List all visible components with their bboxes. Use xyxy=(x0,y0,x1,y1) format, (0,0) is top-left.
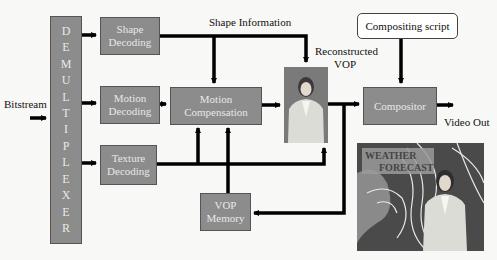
demux-letter: U xyxy=(62,73,71,88)
block-label: Compositor xyxy=(374,100,426,113)
block-label: Decoding xyxy=(109,105,152,118)
vop-memory-block: VOP Memory xyxy=(200,193,251,231)
block-label: VOP xyxy=(214,199,236,212)
demultiplexer-block: D E M U L T I P L E X E R xyxy=(50,16,82,244)
demux-letter: L xyxy=(62,90,69,105)
video-out-label: Video Out xyxy=(444,116,489,128)
compositing-script-box: Compositing script xyxy=(357,13,458,39)
bitstream-label: Bitstream xyxy=(4,98,47,110)
demux-letter: E xyxy=(62,205,69,220)
demux-letter: R xyxy=(62,221,70,236)
forecast-text: FORECAST xyxy=(379,162,434,173)
composited-output-image: WEATHER FORECAST xyxy=(357,143,484,251)
motion-compensation-block: Motion Compensation xyxy=(170,87,262,125)
block-label: Decoding xyxy=(107,165,150,178)
reconstructed-label-line1: Reconstructed xyxy=(315,45,378,57)
block-label: Shape xyxy=(117,23,144,36)
demux-letter: M xyxy=(61,57,72,72)
block-label: Decoding xyxy=(109,36,152,49)
texture-decoding-block: Texture Decoding xyxy=(100,145,157,185)
shape-information-label: Shape Information xyxy=(209,16,291,28)
demux-letter: E xyxy=(62,40,69,55)
weather-text: WEATHER xyxy=(365,150,417,161)
block-label: Motion xyxy=(200,93,232,106)
motion-decoding-block: Motion Decoding xyxy=(100,86,160,124)
shape-decoding-block: Shape Decoding xyxy=(100,17,160,55)
demux-letter: P xyxy=(63,139,70,154)
demux-letter: D xyxy=(62,24,71,39)
weather-map-icon: WEATHER FORECAST xyxy=(357,143,484,251)
reconstructed-vop-image xyxy=(284,67,328,143)
presenter-figure-icon xyxy=(284,67,328,143)
block-label: Motion xyxy=(114,92,146,105)
block-label: Compensation xyxy=(184,106,248,119)
demux-letter: T xyxy=(62,106,69,121)
block-label: Texture xyxy=(112,152,145,165)
demux-letter: I xyxy=(64,122,68,137)
compositor-block: Compositor xyxy=(363,87,437,125)
demux-letter: E xyxy=(62,172,69,187)
reconstructed-label-line2: VOP xyxy=(334,58,356,70)
demux-letter: L xyxy=(62,155,69,170)
demux-letter: X xyxy=(62,188,71,203)
decoder-diagram: Bitstream D E M U L T I P L E X E R Shap… xyxy=(0,0,497,260)
block-label: Memory xyxy=(207,212,245,225)
